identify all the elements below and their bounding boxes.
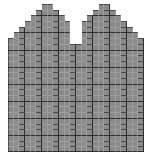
grid-cell <box>138 129 144 135</box>
grid-cell <box>138 50 144 56</box>
grid-cell <box>138 124 144 130</box>
histogram-bar <box>138 38 144 152</box>
grid-cell <box>138 146 144 152</box>
grid-cell <box>138 67 144 73</box>
grid-cell <box>138 38 144 44</box>
grid-cell <box>138 101 144 107</box>
grid-cell <box>65 21 71 27</box>
grid-cell <box>138 89 144 95</box>
grid-cell <box>138 78 144 84</box>
pixel-histogram-plot <box>8 4 144 152</box>
grid-cell <box>138 106 144 112</box>
grid-cell <box>138 44 144 50</box>
grid-cell <box>65 27 71 33</box>
grid-cell <box>138 84 144 90</box>
grid-cell <box>138 118 144 124</box>
grid-cell <box>65 32 71 38</box>
grid-cell <box>138 141 144 147</box>
grid-cell <box>138 112 144 118</box>
grid-cell <box>138 95 144 101</box>
grid-cell <box>138 55 144 61</box>
grid-cell <box>138 72 144 78</box>
grid-cell <box>138 135 144 141</box>
figure-canvas <box>0 0 152 164</box>
grid-cell <box>138 61 144 67</box>
